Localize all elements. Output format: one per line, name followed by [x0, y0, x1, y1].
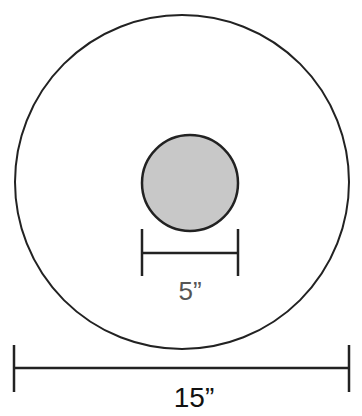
outer-diameter-label: 15”: [174, 382, 214, 414]
inner-diameter-label: 5”: [178, 276, 201, 307]
diagram-canvas: [0, 0, 362, 416]
inner-circle: [142, 135, 238, 231]
